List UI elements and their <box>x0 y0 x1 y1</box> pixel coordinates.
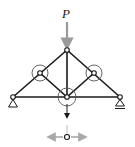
truss-members <box>13 50 120 97</box>
joint-right-mid <box>92 71 97 76</box>
joint-right-support <box>118 95 123 100</box>
truss-diagram <box>0 0 135 147</box>
roller-support-icon <box>115 100 125 109</box>
pin-support-icon <box>9 100 18 108</box>
member-left-diagonal <box>40 73 67 97</box>
joint-bottom-center <box>65 95 70 100</box>
joint-top <box>65 48 70 53</box>
member-right-diagonal <box>67 73 94 97</box>
joint-left-mid <box>38 71 43 76</box>
fbd-joint <box>65 135 70 140</box>
